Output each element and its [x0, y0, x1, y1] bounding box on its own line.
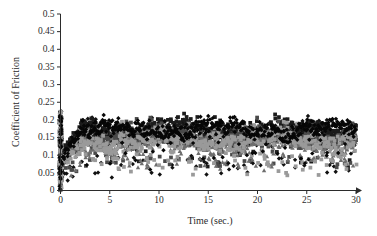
data-point [273, 113, 277, 117]
data-point [285, 121, 289, 125]
data-point [277, 115, 281, 119]
data-point [110, 175, 114, 179]
y-tick-label: 0.4 [43, 44, 55, 54]
data-point [319, 146, 323, 150]
data-point [211, 142, 215, 146]
data-point [245, 172, 249, 176]
data-point [71, 160, 75, 164]
data-point [333, 139, 337, 143]
data-point [116, 116, 120, 120]
x-axis-arrow [356, 187, 362, 193]
y-tick-label: 0.25 [38, 97, 55, 107]
data-points-layer [57, 109, 358, 192]
x-tick-label: 5 [107, 195, 112, 205]
data-point [320, 151, 324, 155]
data-point [207, 147, 211, 151]
data-point [70, 168, 74, 172]
data-point [307, 135, 311, 139]
data-point [301, 168, 305, 172]
data-point [233, 159, 237, 163]
data-point [96, 148, 100, 152]
data-point [116, 157, 120, 161]
data-point [212, 161, 216, 165]
data-point [312, 147, 316, 151]
data-point [345, 167, 349, 171]
data-point [285, 173, 289, 177]
data-point [168, 162, 172, 166]
data-point [241, 150, 245, 154]
data-point [277, 169, 281, 173]
data-point [242, 146, 246, 150]
data-point [204, 138, 208, 142]
data-point [266, 160, 270, 164]
data-point [226, 136, 230, 140]
data-point [96, 170, 100, 174]
data-point [101, 134, 105, 138]
data-point [175, 120, 179, 124]
data-point [186, 141, 190, 145]
data-point [117, 166, 121, 170]
data-point [219, 171, 223, 175]
data-point [122, 165, 126, 169]
data-point [293, 158, 297, 162]
data-point [199, 164, 203, 168]
data-point [158, 155, 162, 159]
data-point [339, 155, 343, 159]
data-point [115, 140, 119, 144]
data-point [105, 141, 109, 145]
data-point [148, 146, 152, 150]
x-tick-label: 20 [253, 195, 263, 205]
axes-layer [61, 14, 363, 194]
data-point [145, 156, 149, 160]
data-point [98, 144, 102, 148]
data-point [280, 160, 284, 164]
data-point [105, 156, 109, 160]
data-point [255, 116, 259, 120]
y-tick-label: 0.35 [38, 62, 55, 72]
data-point [175, 141, 179, 145]
data-point [232, 154, 236, 158]
data-point [175, 162, 179, 166]
data-point [334, 170, 338, 174]
data-point [166, 159, 170, 163]
data-point [325, 170, 329, 174]
data-point [304, 135, 308, 139]
data-point [100, 162, 104, 166]
data-point [185, 115, 189, 119]
data-point [351, 141, 355, 145]
data-point [307, 146, 311, 150]
data-point [113, 136, 117, 140]
data-point [228, 148, 232, 152]
y-tick-label: 0.3 [43, 79, 55, 89]
data-point [231, 148, 235, 152]
data-point [172, 150, 176, 154]
data-point [336, 162, 340, 166]
data-point [244, 166, 248, 170]
data-point [176, 155, 180, 159]
data-point [152, 158, 156, 162]
data-point [320, 158, 324, 162]
data-point [306, 114, 310, 118]
data-point [158, 172, 162, 176]
data-point [84, 152, 88, 156]
data-point [197, 148, 201, 152]
data-point [157, 163, 161, 167]
x-axis-title: Time (sec.) [187, 215, 232, 227]
x-tick-label: 0 [58, 195, 63, 205]
data-point [135, 153, 139, 157]
y-tick-label: 0.15 [38, 132, 55, 142]
data-point [129, 121, 133, 125]
data-point [83, 147, 87, 151]
x-tick-group: 051015202530 [58, 191, 361, 205]
data-point [194, 167, 198, 171]
data-point [294, 164, 298, 168]
data-point [282, 120, 286, 124]
data-point [243, 159, 247, 163]
figure-container: 00.050.10.150.20.250.30.350.40.450.5 051… [0, 0, 377, 236]
data-point [331, 159, 335, 163]
data-point [176, 115, 180, 119]
data-point [117, 144, 121, 148]
data-point [273, 137, 277, 141]
data-point [294, 144, 298, 148]
data-point [290, 154, 294, 158]
